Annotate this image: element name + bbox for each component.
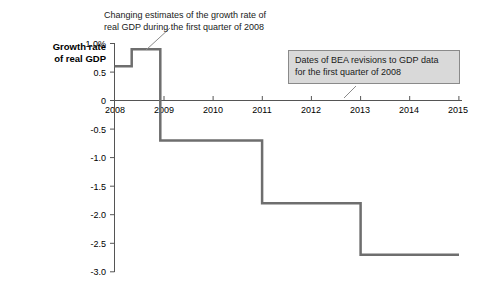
y-axis-ticks bbox=[110, 44, 115, 272]
annotation-growth-estimates-line-2: real GDP during the first quarter of 200… bbox=[104, 22, 264, 32]
annotation-growth-estimates: Changing estimates of the growth rate of… bbox=[104, 10, 266, 33]
annotation-bea-revision-dates: Dates of BEA revisions to GDP data for t… bbox=[288, 50, 460, 84]
plot-area bbox=[0, 0, 487, 284]
x-axis-ticks bbox=[115, 96, 459, 101]
annotation-bea-revision-dates-line-1: Dates of BEA revisions to GDP data bbox=[295, 55, 438, 65]
annotation-growth-estimates-line-1: Changing estimates of the growth rate of bbox=[104, 10, 266, 20]
chart-container: Growth rate of real GDP 1.0% 0.5 0 -0.5 … bbox=[0, 0, 487, 284]
annotation-leader-line-2 bbox=[344, 86, 356, 98]
annotation-bea-revision-dates-line-2: for the first quarter of 2008 bbox=[295, 67, 401, 77]
